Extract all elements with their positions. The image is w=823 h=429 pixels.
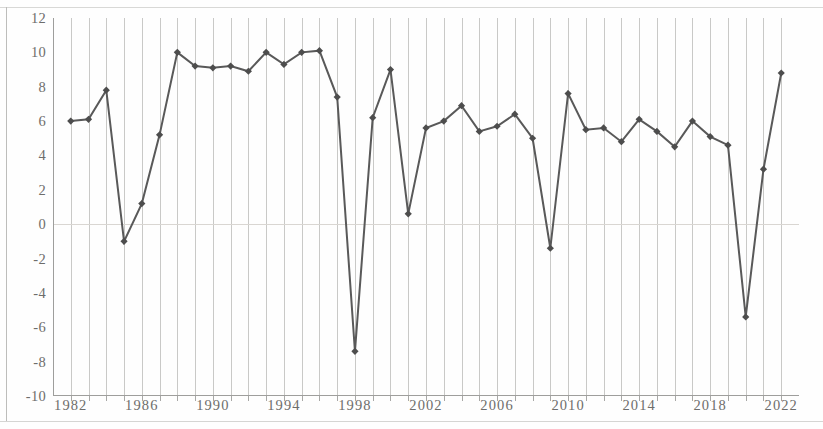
x-axis-tick-label: 2014 bbox=[622, 398, 655, 413]
chart-screenshot: 121086420-2-4-6-8-10 1982198619901994199… bbox=[0, 0, 823, 429]
gridline-vertical bbox=[675, 18, 676, 396]
gridline-vertical bbox=[568, 18, 569, 396]
gridline-vertical bbox=[710, 18, 711, 396]
y-axis-tick-label: 6 bbox=[38, 114, 46, 129]
gridline-vertical bbox=[639, 18, 640, 396]
gridline-vertical bbox=[444, 18, 445, 396]
gridline-vertical bbox=[266, 18, 267, 396]
gridline-vertical bbox=[746, 18, 747, 396]
gridline-vertical bbox=[355, 18, 356, 396]
gridline-vertical bbox=[213, 18, 214, 396]
gridline-vertical bbox=[462, 18, 463, 396]
gridline-vertical bbox=[657, 18, 658, 396]
x-axis-tick-label: 2010 bbox=[551, 398, 584, 413]
gridline-vertical bbox=[142, 18, 143, 396]
x-axis-tick-label: 1998 bbox=[338, 398, 371, 413]
x-axis-tick-label: 2018 bbox=[693, 398, 726, 413]
gridline-vertical bbox=[604, 18, 605, 396]
y-axis-line bbox=[53, 18, 54, 396]
x-axis-tick-label: 1994 bbox=[267, 398, 300, 413]
gridline-vertical bbox=[160, 18, 161, 396]
gridline-vertical bbox=[177, 18, 178, 396]
y-axis-tick-label: 12 bbox=[31, 11, 46, 26]
y-axis-tick-label: 4 bbox=[38, 148, 46, 163]
y-axis-tick-label: -4 bbox=[33, 286, 46, 301]
y-axis-tick-label: 8 bbox=[38, 80, 46, 95]
gridline-vertical bbox=[302, 18, 303, 396]
gridline-vertical bbox=[479, 18, 480, 396]
gridline-vertical bbox=[71, 18, 72, 396]
gridline-vertical bbox=[319, 18, 320, 396]
y-axis-tick-label: -10 bbox=[26, 389, 46, 404]
gridline-vertical bbox=[89, 18, 90, 396]
gridline-vertical bbox=[550, 18, 551, 396]
gridline-vertical bbox=[390, 18, 391, 396]
x-axis-tick-label: 1982 bbox=[54, 398, 87, 413]
gridline-vertical bbox=[533, 18, 534, 396]
y-axis-tick-label: 2 bbox=[38, 183, 46, 198]
plot-area bbox=[53, 18, 799, 396]
gridline-vertical bbox=[728, 18, 729, 396]
x-axis-tick-label: 2006 bbox=[480, 398, 513, 413]
gridline-vertical bbox=[106, 18, 107, 396]
x-axis-tick-label: 2022 bbox=[765, 398, 798, 413]
gridline-vertical bbox=[763, 18, 764, 396]
gridline-vertical bbox=[195, 18, 196, 396]
gridline-vertical bbox=[231, 18, 232, 396]
y-axis-tick-label: -2 bbox=[33, 252, 46, 267]
x-axis-tick-label: 1986 bbox=[125, 398, 158, 413]
page-frame-top-rule bbox=[0, 7, 823, 8]
gridline-vertical bbox=[248, 18, 249, 396]
y-axis-tick-label: -8 bbox=[33, 355, 46, 370]
gridline-vertical bbox=[408, 18, 409, 396]
gridline-vertical bbox=[692, 18, 693, 396]
gridline-vertical bbox=[586, 18, 587, 396]
y-axis-tick-label: 0 bbox=[38, 217, 46, 232]
y-axis-tick-label: 10 bbox=[31, 45, 46, 60]
gridline-vertical bbox=[515, 18, 516, 396]
x-axis-tick-label: 1990 bbox=[196, 398, 229, 413]
x-axis-line bbox=[53, 395, 799, 396]
gridline-vertical bbox=[426, 18, 427, 396]
page-frame-bottom-rule bbox=[0, 421, 823, 422]
gridline-vertical bbox=[781, 18, 782, 396]
zero-baseline bbox=[53, 224, 799, 225]
gridline-vertical bbox=[337, 18, 338, 396]
gridline-vertical bbox=[373, 18, 374, 396]
y-axis-label-group: 121086420-2-4-6-8-10 bbox=[0, 0, 46, 429]
x-axis-tick-label: 2002 bbox=[409, 398, 442, 413]
gridline-vertical bbox=[497, 18, 498, 396]
gridline-vertical bbox=[621, 18, 622, 396]
gridline-vertical bbox=[284, 18, 285, 396]
y-axis-tick-label: -6 bbox=[33, 320, 46, 335]
gridline-vertical bbox=[124, 18, 125, 396]
